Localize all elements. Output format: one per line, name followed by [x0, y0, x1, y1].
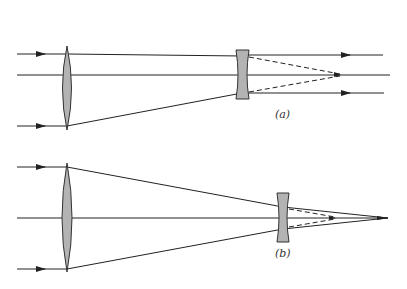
- optics-diagram: [0, 0, 407, 289]
- panel-label-b: (b): [275, 247, 291, 260]
- virtual-ray-top-a: [249, 57, 340, 74]
- panel-a: [17, 54, 390, 126]
- converging-ray-bottom-a: [67, 93, 242, 126]
- convex-lens-b: [62, 163, 72, 272]
- convex-lens-a: [63, 46, 72, 130]
- converging-ray-bottom-b: [67, 229, 283, 269]
- concave-lens-a: [236, 50, 249, 99]
- converging-ray-top-b: [67, 167, 283, 207]
- panel-b: [17, 167, 388, 269]
- virtual-ray-bottom-a: [249, 76, 340, 92]
- refracted-ray-bottom-b: [283, 218, 388, 229]
- converging-ray-top-a: [67, 54, 242, 56]
- concave-lens-b: [277, 193, 289, 242]
- panel-label-a: (a): [275, 108, 290, 121]
- refracted-ray-top-b: [283, 207, 388, 218]
